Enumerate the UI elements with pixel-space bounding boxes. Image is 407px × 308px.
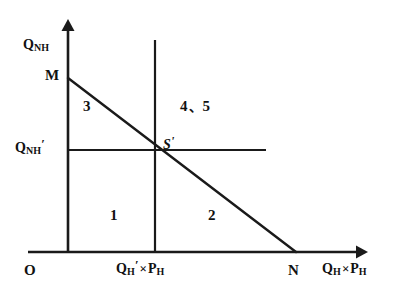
equilibrium-point-label-s-prime: Sʹ	[163, 138, 174, 152]
x-axis-arrowhead	[356, 246, 368, 259]
region-label-2: 2	[208, 208, 216, 223]
x-tick-label-qh-star-ph: QHʹ×PH	[116, 262, 165, 276]
y-axis-label: QNH	[23, 38, 49, 52]
region-label-4-5: 4、5	[180, 99, 210, 114]
y-axis-arrowhead	[62, 19, 75, 31]
point-label-m: M	[45, 68, 59, 83]
point-label-n: N	[288, 263, 299, 278]
y-tick-label-qnh-star: QNHʹ	[15, 141, 45, 155]
origin-label-o: O	[24, 263, 36, 278]
x-axis-label: QH×PH	[322, 262, 367, 276]
region-label-1: 1	[110, 208, 118, 223]
region-label-3: 3	[83, 99, 91, 114]
budget-line-diagram: QNH M QNHʹ Sʹ 3 4、5 1 2 O QHʹ×PH N QH×PH	[0, 0, 407, 308]
